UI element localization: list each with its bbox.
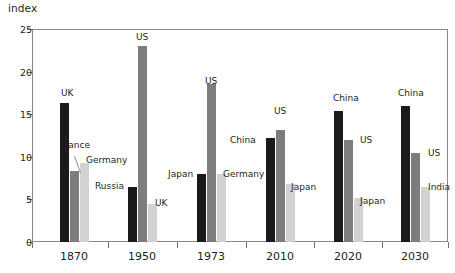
x-tick-mark <box>314 242 315 248</box>
x-tick-label-1950: 1950 <box>128 250 156 263</box>
bar-2030-china <box>401 106 410 242</box>
bar-2020-us <box>344 140 353 242</box>
bar-annotation-russia: Russia <box>95 181 124 191</box>
x-tick-mark <box>246 242 247 248</box>
bar-1973-us <box>207 84 216 242</box>
bar-annotation-china: China <box>230 135 256 145</box>
bar-annotation-us: US <box>360 135 372 145</box>
y-tick-label: 15 <box>10 109 32 120</box>
bar-1973-japan <box>197 174 206 242</box>
x-tick-mark <box>177 242 178 248</box>
bar-1870-germany <box>80 163 89 242</box>
bar-annotation-us: US <box>428 148 440 158</box>
x-tick-label-2030: 2030 <box>401 250 429 263</box>
y-axis: 0510152025 <box>0 29 32 242</box>
bars-layer: UKFranceGermanyRussiaUSUKJapanUSGermanyC… <box>32 29 448 242</box>
bar-2030-us <box>411 153 420 242</box>
bar-annotation-uk: UK <box>155 198 168 208</box>
bar-1950-us <box>138 46 147 242</box>
x-tick-mark <box>108 242 109 248</box>
x-tick-mark <box>448 242 449 248</box>
x-axis: 187019501973201020202030 <box>32 242 448 273</box>
bar-1870-uk <box>60 103 69 242</box>
x-tick-mark <box>382 242 383 248</box>
bar-annotation-japan: Japan <box>168 169 193 179</box>
bar-2010-us <box>276 130 285 242</box>
bar-1973-germany <box>217 174 226 242</box>
y-tick-label: 10 <box>10 151 32 162</box>
bar-2020-china <box>334 111 343 242</box>
bar-annotation-us: US <box>205 76 217 86</box>
bar-1950-russia <box>128 187 137 242</box>
x-tick-label-1973: 1973 <box>197 250 225 263</box>
y-tick-label: 20 <box>10 66 32 77</box>
bar-2010-china <box>266 138 275 242</box>
y-tick-label: 5 <box>10 194 32 205</box>
bar-2030-india <box>421 187 430 242</box>
bar-1950-uk <box>148 204 157 242</box>
y-tick-label: 25 <box>10 24 32 35</box>
bar-1870-france <box>70 171 79 242</box>
bar-annotation-germany: Germany <box>86 155 127 165</box>
bar-2010-japan <box>286 184 295 242</box>
bar-chart: index 0510152025 UKFranceGermanyRussiaUS… <box>0 0 455 273</box>
bar-annotation-china: China <box>333 93 359 103</box>
y-axis-title: index <box>8 2 37 14</box>
bar-annotation-us: US <box>274 106 286 116</box>
x-tick-mark <box>32 242 33 248</box>
x-tick-label-2020: 2020 <box>334 250 362 263</box>
bar-annotation-uk: UK <box>61 88 74 98</box>
bar-annotation-us: US <box>136 32 148 42</box>
bar-annotation-japan: Japan <box>360 196 385 206</box>
bar-annotation-india: India <box>428 182 450 192</box>
bar-annotation-china: China <box>398 88 424 98</box>
y-tick-label: 0 <box>10 237 32 248</box>
bar-annotation-germany: Germany <box>223 169 264 179</box>
bar-annotation-france: France <box>60 140 90 150</box>
x-tick-label-1870: 1870 <box>60 250 88 263</box>
bar-annotation-japan: Japan <box>291 182 316 192</box>
x-tick-label-2010: 2010 <box>266 250 294 263</box>
